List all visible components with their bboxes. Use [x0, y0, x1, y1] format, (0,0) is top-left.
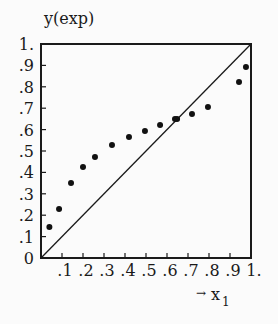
data-point: [126, 134, 132, 140]
x-tick-label: .4: [120, 261, 135, 280]
x-tick-label: .8: [204, 261, 219, 280]
data-point: [157, 122, 163, 128]
y-tick-label: .7: [19, 99, 34, 118]
x-axis-subscript: 1: [222, 295, 230, 309]
y-tick-label: .1: [19, 228, 34, 247]
y-tick-label: .9: [19, 56, 34, 75]
data-point: [109, 142, 115, 148]
data-point: [205, 104, 211, 110]
data-point: [56, 206, 62, 212]
y-tick-label: 1.: [19, 35, 34, 54]
data-point: [80, 164, 86, 170]
x-tick-label: .9: [225, 261, 240, 280]
y-tick-label: .4: [19, 163, 34, 182]
data-point: [243, 64, 249, 70]
y-tick-label: 0: [24, 249, 34, 268]
x-tick-label: .3: [99, 261, 114, 280]
data-point: [92, 154, 98, 160]
x-tick-label: .6: [162, 261, 177, 280]
y-tick-label: .2: [19, 206, 34, 225]
y-tick-label: .6: [19, 121, 34, 140]
y-tick-label: .8: [19, 78, 34, 97]
x-tick-label: .1: [57, 261, 72, 280]
data-point: [189, 111, 195, 117]
data-point: [68, 180, 74, 186]
arrow-icon: →: [196, 286, 206, 300]
x-axis-var: x: [211, 285, 220, 304]
data-points: [46, 64, 249, 230]
y-axis-title: y(exp): [43, 9, 94, 28]
y-tick-label: .3: [19, 185, 34, 204]
data-point: [142, 128, 148, 134]
vle-diagram-chart: 0.1.2.3.4.5.6.7.8.91. .1.2.3.4.5.6.7.8.9…: [0, 0, 278, 324]
data-point: [236, 79, 242, 85]
data-point: [46, 224, 52, 230]
x-tick-label: .2: [78, 261, 93, 280]
y-tick-label: .5: [19, 142, 34, 161]
data-point: [174, 116, 180, 122]
x-axis-title: → x 1: [196, 285, 230, 309]
x-tick-label: 1.: [246, 261, 261, 280]
x-tick-label: .5: [141, 261, 156, 280]
x-tick-label: .7: [183, 261, 198, 280]
diagonal-reference-line: [41, 44, 251, 258]
